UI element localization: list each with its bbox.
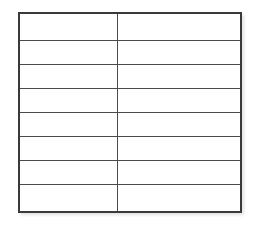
table-cell[interactable] [118, 185, 242, 213]
table-row [19, 185, 241, 213]
table-row [19, 41, 241, 65]
table-cell[interactable] [19, 65, 118, 89]
table-row [19, 137, 241, 161]
table-row [19, 65, 241, 89]
table-row [19, 113, 241, 137]
empty-table-container [18, 12, 242, 212]
table-cell[interactable] [19, 185, 118, 213]
table-cell[interactable] [118, 13, 242, 41]
table-row [19, 13, 241, 41]
table-cell[interactable] [19, 13, 118, 41]
table-cell[interactable] [19, 41, 118, 65]
table-cell[interactable] [118, 113, 242, 137]
table-cell[interactable] [118, 89, 242, 113]
table-cell[interactable] [19, 113, 118, 137]
table-cell[interactable] [118, 65, 242, 89]
table-row [19, 89, 241, 113]
table-row [19, 161, 241, 185]
table-cell[interactable] [118, 41, 242, 65]
table-cell[interactable] [19, 89, 118, 113]
empty-table [18, 12, 242, 213]
table-cell[interactable] [118, 137, 242, 161]
table-cell[interactable] [19, 137, 118, 161]
table-cell[interactable] [118, 161, 242, 185]
table-cell[interactable] [19, 161, 118, 185]
